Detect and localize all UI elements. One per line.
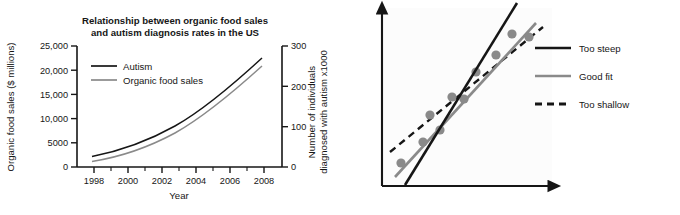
x-ticks (94, 167, 264, 173)
left-y-tick-label-5000: 5000 (48, 138, 68, 148)
left-y-tick-label-0: 0 (63, 162, 68, 172)
x-tick-label-2004: 2004 (186, 176, 206, 186)
legend-label-good-fit: Good fit (579, 71, 613, 82)
legend-label-too-shallow: Too shallow (579, 99, 629, 110)
x-tick-label-1998: 1998 (84, 176, 104, 186)
legend-label-organic-food-sales: Organic food sales (123, 75, 203, 86)
scatter-point (447, 92, 456, 101)
right-y-tick-label-100: 100 (291, 122, 306, 132)
right-y-ticks (282, 46, 288, 167)
right-y-tick-label-0: 0 (291, 162, 296, 172)
scatter-point (418, 137, 427, 146)
chart-title-line1: Relationship between organic food sales (82, 15, 268, 26)
x-axis-title: Year (169, 190, 189, 201)
x-tick-label-2000: 2000 (118, 176, 138, 186)
series-line-autism (92, 58, 262, 157)
chart-title-line2: and autism diagnosis rates in the US (91, 27, 260, 38)
x-tick-label-2008: 2008 (254, 176, 274, 186)
left-chart-legend: Autism Organic food sales (91, 61, 203, 86)
x-tick-label-2002: 2002 (152, 176, 172, 186)
scatter-point (524, 32, 533, 41)
right-scatter-panel: Too steep Good fit Too shallow (340, 0, 680, 215)
right-y-axis-title-line1: Number of individuals (306, 66, 317, 158)
left-y-ticks (71, 46, 77, 167)
scatter-point (491, 50, 500, 59)
left-y-tick-label-10000: 10,000 (40, 114, 68, 124)
legend-label-too-steep: Too steep (579, 43, 621, 54)
legend-label-autism: Autism (123, 61, 152, 72)
scatter-point (425, 110, 434, 119)
x-tick-label-2006: 2006 (220, 176, 240, 186)
left-y-tick-label-15000: 15,000 (40, 90, 68, 100)
figure-root: Relationship between organic food sales … (0, 0, 680, 215)
right-y-tick-label-300: 300 (291, 41, 306, 51)
right-y-axis-title-line2: diagnosed with autism x1000 (318, 50, 329, 174)
left-line-chart-panel: Relationship between organic food sales … (0, 0, 340, 215)
left-y-axis-title: Organic food sales ($ millions) (5, 42, 16, 171)
left-chart-svg: Relationship between organic food sales … (0, 0, 340, 215)
right-chart-svg: Too steep Good fit Too shallow (340, 0, 680, 215)
scatter-point (507, 29, 516, 38)
left-y-tick-label-20000: 20,000 (40, 66, 68, 76)
left-y-tick-label-25000: 25,000 (40, 41, 68, 51)
scatter-point (396, 158, 405, 167)
right-y-tick-label-200: 200 (291, 82, 306, 92)
